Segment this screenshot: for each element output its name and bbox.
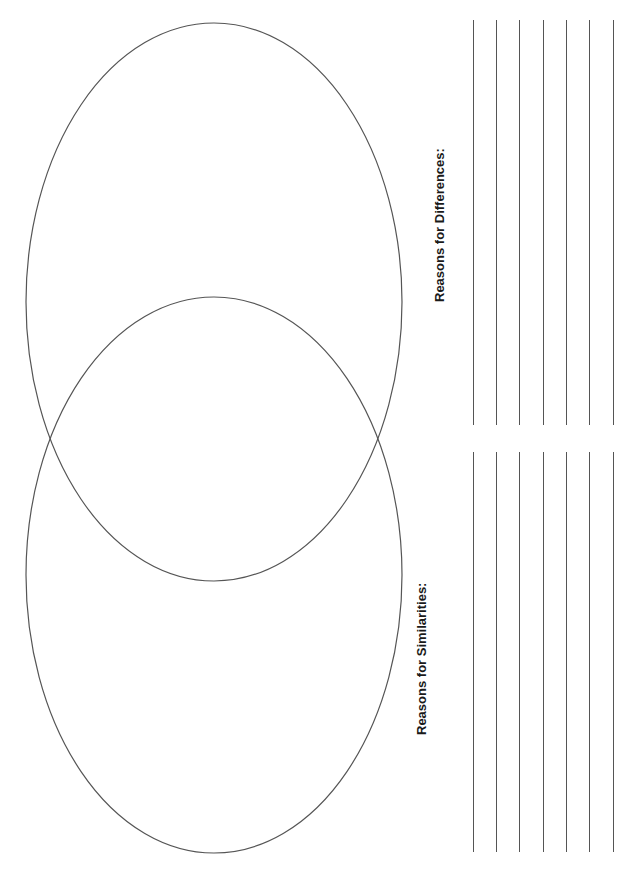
similarities-heading: Reasons for Similarities: [414,583,429,735]
differences-writing-line [473,20,474,425]
similarities-writing-line [613,452,614,852]
bottom-circle [26,297,402,853]
differences-heading: Reasons for Differences: [432,148,447,302]
differences-writing-line [589,20,590,425]
differences-writing-line [543,20,544,425]
differences-writing-line [519,20,520,425]
venn-diagram [0,0,640,879]
differences-writing-line [613,20,614,425]
similarities-writing-line [473,452,474,852]
similarities-writing-line [589,452,590,852]
similarities-writing-line [566,452,567,852]
differences-writing-line [496,20,497,425]
similarities-writing-line [496,452,497,852]
differences-writing-line [566,20,567,425]
similarities-writing-line [543,452,544,852]
similarities-writing-line [519,452,520,852]
top-circle [26,23,402,581]
